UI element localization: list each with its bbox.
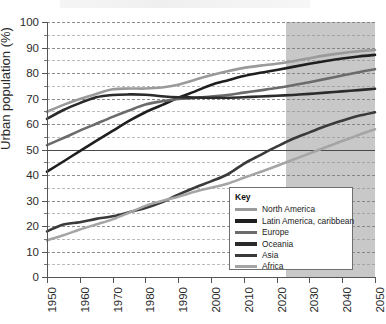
x-tick-label-2030: 2030 (308, 287, 320, 313)
y-tick-100 (42, 22, 47, 23)
y-tick-90 (42, 48, 47, 49)
y-tick-80 (42, 73, 47, 74)
series-line-europe (47, 69, 375, 145)
x-tick-1980 (145, 277, 146, 283)
legend-label: Oceania (262, 240, 293, 248)
y-tick-30 (42, 201, 47, 202)
y-minor-tick-35 (44, 188, 47, 189)
y-minor-tick-65 (44, 111, 47, 112)
y-tick-label-20: 20 (0, 220, 39, 232)
x-tick-1960 (80, 277, 81, 283)
y-minor-tick-85 (44, 60, 47, 61)
y-tick-label-40: 40 (0, 169, 39, 181)
y-tick-20 (42, 226, 47, 227)
x-tick-label-1990: 1990 (177, 287, 189, 313)
x-tick-2050 (375, 277, 376, 283)
y-minor-tick-55 (44, 137, 47, 138)
y-tick-label-30: 30 (0, 195, 39, 207)
x-tick-label-1970: 1970 (112, 287, 124, 313)
legend-item-africa: Africa (235, 261, 347, 272)
x-tick-label-1960: 1960 (79, 287, 91, 313)
series-line-latin-america-caribbean (47, 55, 375, 172)
x-tick-label-1980: 1980 (144, 287, 156, 313)
legend-swatch-icon (235, 254, 257, 257)
x-tick-2020 (277, 277, 278, 283)
y-minor-tick-15 (44, 239, 47, 240)
x-tick-label-1950: 1950 (46, 287, 58, 313)
legend-item-europe: Europe (235, 227, 347, 238)
y-minor-tick-75 (44, 86, 47, 87)
legend-label: Africa (262, 262, 283, 270)
x-tick-label-2020: 2020 (276, 287, 288, 313)
legend-key: Key North AmericaLatin America, caribbea… (229, 187, 353, 270)
y-minor-tick-25 (44, 213, 47, 214)
legend-label: North America (262, 205, 315, 213)
y-tick-70 (42, 99, 47, 100)
x-tick-label-2000: 2000 (210, 287, 222, 313)
cropped-title-sliver (60, 0, 310, 8)
x-tick-label-2010: 2010 (243, 287, 255, 313)
legend-swatch-icon (235, 231, 257, 234)
legend-label: Europe (262, 228, 289, 236)
x-tick-2010 (244, 277, 245, 283)
legend-title: Key (235, 192, 347, 202)
legend-item-latin-america-caribbean: Latin America, caribbean (235, 215, 347, 226)
legend-item-oceania: Oceania (235, 238, 347, 249)
legend-item-north-america: North America (235, 204, 347, 215)
legend-label: Latin America, caribbean (262, 217, 354, 225)
x-tick-label-2040: 2040 (341, 287, 353, 313)
x-tick-1970 (113, 277, 114, 283)
legend-swatch-icon (235, 219, 257, 222)
series-line-north-america (47, 50, 375, 112)
x-tick-2000 (211, 277, 212, 283)
legend-swatch-icon (235, 242, 257, 245)
legend-rows: North AmericaLatin America, caribbeanEur… (235, 204, 347, 272)
y-minor-tick-95 (44, 35, 47, 36)
y-tick-50 (42, 150, 47, 151)
x-tick-1990 (178, 277, 179, 283)
legend-swatch-icon (235, 208, 257, 211)
y-tick-10 (42, 252, 47, 253)
y-minor-tick-45 (44, 162, 47, 163)
legend-swatch-icon (235, 265, 257, 268)
legend-label: Asia (262, 251, 278, 259)
x-tick-2040 (342, 277, 343, 283)
y-tick-60 (42, 124, 47, 125)
y-tick-label-0: 0 (0, 271, 39, 283)
legend-item-asia: Asia (235, 250, 347, 261)
y-axis (47, 22, 48, 277)
y-minor-tick-5 (44, 264, 47, 265)
y-tick-label-10: 10 (0, 246, 39, 258)
x-tick-2030 (309, 277, 310, 283)
x-tick-1950 (47, 277, 48, 283)
y-axis-title: Urban population (%) (0, 27, 13, 150)
x-tick-label-2050: 2050 (374, 287, 386, 313)
y-tick-40 (42, 175, 47, 176)
